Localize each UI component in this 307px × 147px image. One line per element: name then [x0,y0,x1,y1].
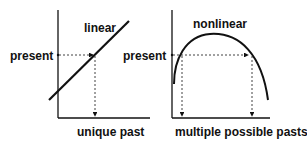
right-present-tick [171,54,173,56]
linear-vs-nonlinear-diagram: linear present unique past nonlinear pre… [0,0,307,147]
right-present-label: present [123,49,166,63]
unique-past-label: unique past [77,125,144,139]
nonlinear-curve [174,34,268,100]
left-panel: linear present unique past [10,10,150,139]
nonlinear-label: nonlinear [193,17,247,31]
left-present-label: present [10,49,53,63]
left-present-tick [57,54,59,56]
multiple-pasts-label: multiple possible pasts [175,125,307,139]
linear-label: linear [84,21,116,35]
right-panel: nonlinear present multiple possible past… [123,10,307,139]
